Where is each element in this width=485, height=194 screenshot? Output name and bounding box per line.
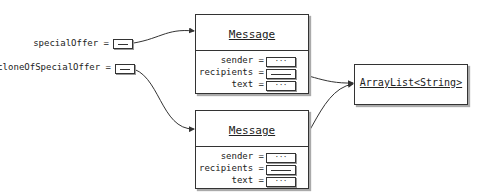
- variable-label-specialOffer: specialOffer =: [33, 38, 109, 48]
- field-box-recipients: [266, 165, 296, 175]
- object-title: Message: [196, 124, 308, 137]
- field-box-sender: ···: [266, 57, 296, 67]
- field-label-text: text =: [231, 175, 264, 185]
- field-label-recipients: recipients =: [199, 67, 264, 77]
- arrow-specialOffer-to-message-top: [127, 31, 194, 44]
- field-label-text: text =: [231, 79, 264, 89]
- field-label-recipients: recipients =: [199, 163, 264, 173]
- object-divider: [196, 146, 308, 147]
- message-object-top: Message sender = ··· recipients = text =…: [195, 14, 309, 94]
- message-object-bottom: Message sender = ··· recipients = text =…: [195, 110, 309, 189]
- field-box-recipients: [266, 69, 296, 79]
- variable-box-cloneOfSpecialOffer: [115, 64, 135, 74]
- field-label-sender: sender =: [221, 151, 264, 161]
- arrow-clone-to-message-bottom: [129, 68, 194, 129]
- arraylist-object: ArrayList<String>: [354, 64, 468, 105]
- object-title: Message: [196, 28, 308, 41]
- field-label-sender: sender =: [221, 55, 264, 65]
- variable-box-specialOffer: [113, 39, 133, 49]
- field-box-text: ···: [266, 177, 296, 187]
- variable-label-cloneOfSpecialOffer: cloneOfSpecialOffer =: [0, 62, 111, 72]
- field-box-text: ···: [266, 81, 296, 91]
- field-box-sender: ···: [266, 153, 296, 163]
- object-divider: [196, 50, 308, 51]
- object-title: ArrayList<String>: [355, 77, 467, 88]
